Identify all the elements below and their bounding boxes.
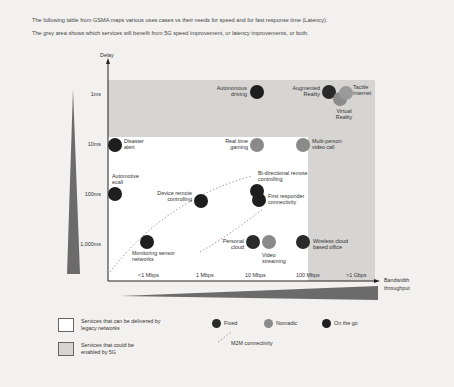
x-tick-gt1gbps: >1 Gbps: [346, 272, 367, 278]
x-axis-arrow-icon: [374, 279, 380, 283]
label-monitoring-sensor-networks: Monitoring sensor networks: [132, 250, 178, 263]
y-tick-100ms: 100ms: [85, 191, 101, 197]
y-axis-arrow-icon: [106, 58, 110, 64]
label-bidirectional-remote-controlling: Bi-directional remote controlling: [258, 170, 316, 183]
x-tick-1mbps: 1 Mbps: [196, 272, 214, 278]
label-automotive-ecall: Automotive ecall: [112, 173, 146, 186]
point-disaster-alert: [108, 138, 122, 152]
point-first-responder-connectivity: [252, 193, 266, 207]
point-video-streaming: [262, 235, 276, 249]
label-augmented-reality: Augmented Reality: [280, 85, 320, 98]
legend-label-5g: Services that could be enabled by 5G: [81, 342, 151, 355]
x-tick-lt1mbps: <1 Mbps: [138, 272, 159, 278]
legend-dot-on-the-go: [322, 319, 331, 328]
latency-wedge: [67, 89, 80, 274]
legend-label-on-the-go: On the go: [334, 320, 358, 327]
point-automotive-ecall: [108, 187, 122, 201]
label-device-remote-controlling: Device remote controlling: [156, 190, 192, 203]
legend-swatch-legacy: [58, 318, 74, 332]
label-video-streaming: Video streaming: [262, 252, 294, 265]
y-tick-10ms: 10ms: [88, 141, 101, 147]
label-first-responder-connectivity: First responder connectivity: [268, 193, 312, 206]
point-autonomous-driving: [250, 85, 264, 99]
label-personal-cloud: Personal cloud: [214, 238, 244, 251]
y-tick-1000ms: 1,000ms: [80, 241, 101, 247]
point-device-remote-controlling: [194, 194, 208, 208]
x-axis-label-2: throughput: [384, 285, 410, 291]
legend-swatch-5g: [58, 342, 74, 356]
label-virtual-reality: Virtual Reality: [332, 108, 356, 121]
point-personal-cloud: [246, 235, 260, 249]
label-autonomous-driving: Autonomous driving: [205, 85, 247, 98]
bandwidth-wedge: [120, 286, 378, 300]
point-monitoring-sensor-networks: [140, 235, 154, 249]
legend-label-m2m: M2M connectivity: [231, 340, 273, 347]
legend-label-legacy: Services that can be delivered by legacy…: [81, 318, 171, 331]
label-tactile-internet: Tactile Internet: [353, 84, 377, 97]
point-wireless-cloud-office: [296, 235, 310, 249]
y-tick-1ms: 1ms: [91, 91, 101, 97]
point-tactile-internet: [339, 86, 353, 100]
grey-area-bandwidth: [308, 137, 375, 281]
label-real-time-gaming: Real time gaming: [210, 138, 248, 151]
legend-label-fixed: Fixed: [224, 320, 237, 327]
label-multi-person-video-call: Multi-person video call: [312, 138, 350, 151]
label-disaster-alert: Disaster alert: [124, 138, 150, 151]
legend-dot-fixed: [212, 319, 221, 328]
x-axis-label-1: Bandwidth: [384, 277, 409, 283]
point-multi-person-video-call: [296, 138, 310, 152]
point-real-time-gaming: [250, 138, 264, 152]
legend-dot-nomadic: [264, 319, 273, 328]
x-tick-100mbps: 100 Mbps: [296, 272, 320, 278]
y-axis-label: Delay: [100, 52, 114, 58]
legend-label-nomadic: Nomadic: [276, 320, 297, 327]
legend-m2m-line: [218, 332, 232, 342]
label-wireless-cloud-office: Wireless cloud based office: [313, 238, 355, 251]
x-tick-10mbps: 10 Mbps: [245, 272, 266, 278]
